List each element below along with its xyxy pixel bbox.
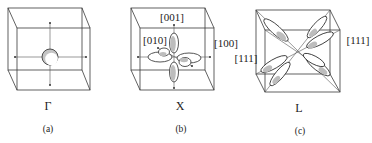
direction-label-010: [010] <box>143 34 167 46</box>
caption-a: (a) <box>43 124 54 135</box>
direction-label-001: [001] <box>160 11 184 23</box>
diagram-canvas: Γ (a) <box>0 0 372 143</box>
ellipsoids-l <box>259 14 336 88</box>
panel-c: [111] [111] L (c) <box>234 10 369 137</box>
caption-c: (c) <box>295 126 306 137</box>
direction-label-111-left: [111] <box>234 52 257 64</box>
panel-a: Γ (a) <box>8 8 90 135</box>
point-label-gamma: Γ <box>45 99 52 113</box>
direction-label-111-right: [111] <box>346 34 369 46</box>
panel-b: [001] [010] [100] X (b) <box>131 8 238 135</box>
sphere-fermi-surface <box>42 49 58 65</box>
point-label-x: X <box>176 99 185 113</box>
direction-label-100: [100] <box>214 37 238 49</box>
point-label-l: L <box>295 101 302 115</box>
caption-b: (b) <box>175 124 186 135</box>
